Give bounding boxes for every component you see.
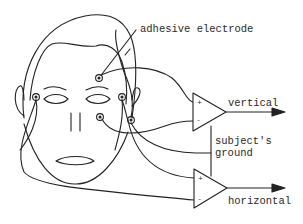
horizontal-output-arrowhead (272, 184, 285, 192)
jaw (24, 124, 128, 184)
horizontal-label: horizontal (228, 195, 291, 207)
right-eyebrow (86, 87, 108, 90)
subjects-ground-label-line2: ground (215, 147, 253, 159)
electrode-right-canthus (119, 94, 126, 101)
wire-left-canthus-to-horizontal-minus (21, 100, 194, 200)
electrode-left-canthus (33, 94, 40, 101)
horizontal-plus-sign: + (198, 175, 203, 181)
head-outline (23, 15, 136, 118)
electrode-leader-line-2 (125, 49, 130, 55)
hairline (30, 43, 127, 104)
right-eye (86, 95, 110, 104)
vertical-minus-sign: – (197, 117, 200, 123)
adhesive-electrode-label: adhesive electrode (140, 23, 253, 35)
subjects-ground-label-line1: subject's (215, 135, 272, 147)
electrode-above-eye (96, 75, 103, 82)
wire-above-eye-to-vertical-plus (101, 68, 193, 102)
left-eyebrow (44, 87, 66, 90)
right-ear (132, 88, 140, 106)
vertical-plus-sign: + (197, 99, 202, 105)
wire-below-eye-to-vertical-minus (102, 119, 193, 133)
wire-ground-loop (116, 30, 133, 117)
vertical-output-arrowhead (272, 108, 285, 116)
mouth (56, 157, 94, 165)
vertical-label: vertical (228, 97, 278, 109)
wire-right-canthus-down (115, 100, 122, 150)
horizontal-minus-sign: – (198, 196, 201, 202)
eog-electrode-diagram: adhesive electrode vertical subject's gr… (0, 0, 303, 224)
left-eye (44, 95, 68, 104)
